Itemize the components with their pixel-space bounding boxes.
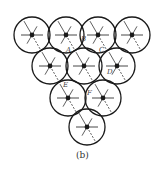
region-label: F (86, 89, 93, 97)
coverage-cell (69, 109, 105, 145)
region-label: A (65, 46, 71, 54)
coverage-cell (32, 48, 68, 84)
node-dot (101, 96, 106, 101)
coverage-cell (14, 17, 50, 53)
region-label: C (99, 46, 105, 54)
region-label: E (62, 81, 68, 89)
node-dot (115, 64, 120, 69)
figure-caption: (b) (0, 150, 165, 160)
region-label: D (106, 68, 113, 76)
node-dot (30, 33, 35, 38)
node-dot (130, 33, 135, 38)
node-dot (48, 64, 53, 69)
coverage-cell (66, 48, 102, 84)
hexagonal-cell-coverage-diagram: ABCDEF (0, 0, 165, 171)
coverage-cell (85, 80, 121, 116)
region-label: B (80, 35, 86, 43)
coverage-cell (99, 48, 135, 84)
node-dot (85, 125, 90, 130)
node-dot (66, 96, 71, 101)
node-dot (96, 33, 101, 38)
node-dot (82, 64, 87, 69)
node-dot (64, 33, 69, 38)
